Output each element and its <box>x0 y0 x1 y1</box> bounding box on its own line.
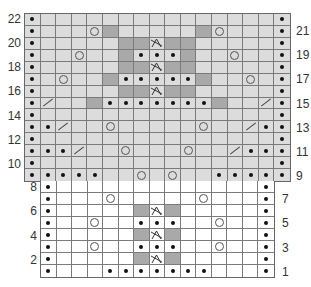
upper-chart-cell <box>181 98 197 110</box>
upper-chart-cell <box>119 62 135 74</box>
lower-chart-cell <box>227 229 243 241</box>
upper-chart-cell <box>165 145 181 157</box>
upper-chart-cell <box>72 145 88 157</box>
upper-chart-cell <box>25 14 41 26</box>
upper-chart-cell <box>119 145 135 157</box>
lower-chart-cell <box>134 241 150 253</box>
upper-chart-cell <box>41 98 57 110</box>
lower-chart-cell <box>243 217 259 229</box>
sk2p-decrease-icon <box>150 62 163 72</box>
upper-chart-cell <box>25 133 41 145</box>
lower-chart-cell <box>212 265 228 277</box>
upper-chart-cell <box>181 26 197 38</box>
upper-chart-cell <box>150 50 166 62</box>
lower-chart-cell <box>119 217 135 229</box>
upper-chart-cell <box>196 86 212 98</box>
lower-chart-cell <box>196 217 212 229</box>
upper-chart-cell <box>56 121 72 133</box>
row-number-label: 14 <box>8 110 21 122</box>
purl-dot-icon <box>202 269 206 273</box>
lower-chart-cell <box>212 229 228 241</box>
upper-chart-cell <box>243 98 259 110</box>
upper-chart-cell <box>134 14 150 26</box>
upper-chart-cell <box>103 121 119 133</box>
lower-chart-cell <box>258 181 274 193</box>
upper-chart-cell <box>87 50 103 62</box>
purl-dot-icon <box>30 113 34 117</box>
lower-chart-cell <box>212 217 228 229</box>
upper-chart-cell <box>134 121 150 133</box>
purl-dot-icon <box>186 269 190 273</box>
upper-chart-cell <box>25 50 41 62</box>
upper-chart-cell <box>25 62 41 74</box>
lower-chart-cell <box>243 253 259 265</box>
upper-chart-cell <box>181 145 197 157</box>
upper-chart-cell <box>274 50 290 62</box>
upper-chart-cell <box>259 145 275 157</box>
upper-chart-grid <box>24 13 291 182</box>
upper-chart-cell <box>87 14 103 26</box>
yarn-over-circle-icon <box>246 75 255 84</box>
lower-chart-cell <box>57 205 73 217</box>
upper-chart-cell <box>243 133 259 145</box>
lower-chart-cell <box>103 181 119 193</box>
upper-chart-cell <box>150 169 166 181</box>
upper-chart-cell <box>41 109 57 121</box>
lower-chart-cell <box>88 205 104 217</box>
upper-chart-cell <box>181 74 197 86</box>
lower-chart-cell <box>103 229 119 241</box>
purl-dot-icon <box>30 53 34 57</box>
upper-chart-cell <box>212 98 228 110</box>
upper-chart-cell <box>119 121 135 133</box>
upper-chart-cell <box>134 109 150 121</box>
purl-dot-icon <box>280 101 284 105</box>
purl-dot-icon <box>124 269 128 273</box>
lower-chart-cell <box>41 217 57 229</box>
upper-chart-cell <box>243 121 259 133</box>
purl-dot-icon <box>280 137 284 141</box>
upper-chart-cell <box>72 50 88 62</box>
purl-dot-icon <box>264 185 268 189</box>
upper-chart-cell <box>196 50 212 62</box>
purl-dot-icon <box>280 65 284 69</box>
upper-chart-cell <box>228 157 244 169</box>
purl-dot-icon <box>46 149 50 153</box>
upper-chart-cell <box>228 14 244 26</box>
upper-chart-cell <box>103 50 119 62</box>
purl-dot-icon <box>155 269 159 273</box>
upper-chart-cell <box>103 145 119 157</box>
lower-chart-cell <box>181 205 197 217</box>
upper-chart-cell <box>150 157 166 169</box>
upper-chart-cell <box>274 86 290 98</box>
lower-chart-cell <box>57 229 73 241</box>
lower-chart-cell <box>181 265 197 277</box>
row-number-label: 17 <box>296 73 309 85</box>
lower-chart-cell <box>103 193 119 205</box>
upper-chart-cell <box>212 109 228 121</box>
k2tog-slash-icon <box>43 99 53 107</box>
purl-dot-icon <box>46 269 50 273</box>
yarn-over-circle-icon <box>106 194 115 203</box>
upper-chart-cell <box>87 86 103 98</box>
lower-chart-cell <box>227 181 243 193</box>
upper-chart-cell <box>228 74 244 86</box>
lower-chart-cell <box>165 181 181 193</box>
lower-chart-cell <box>134 205 150 217</box>
purl-dot-icon <box>139 53 143 57</box>
purl-dot-icon <box>264 197 268 201</box>
purl-dot-icon <box>264 257 268 261</box>
upper-chart-cell <box>56 50 72 62</box>
lower-chart-cell <box>243 193 259 205</box>
lower-chart-cell <box>41 265 57 277</box>
purl-dot-icon <box>264 173 268 177</box>
lower-chart-cell <box>196 181 212 193</box>
lower-chart-cell <box>165 253 181 265</box>
lower-chart-cell <box>258 217 274 229</box>
purl-dot-icon <box>171 221 175 225</box>
upper-chart-cell <box>41 86 57 98</box>
upper-chart-cell <box>72 121 88 133</box>
upper-chart-cell <box>56 145 72 157</box>
upper-chart-cell <box>228 50 244 62</box>
purl-dot-icon <box>280 161 284 165</box>
upper-chart-cell <box>103 86 119 98</box>
